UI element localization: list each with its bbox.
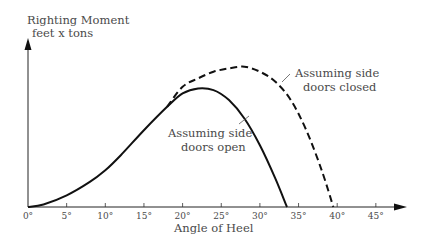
- annotation-open-line2: doors open: [181, 140, 246, 154]
- annotation-open-line1: Assuming side: [167, 126, 252, 140]
- x-tick-label: 10°: [97, 211, 113, 221]
- annotation-leader-closed: [282, 74, 290, 82]
- y-axis-arrow-icon: [25, 38, 32, 50]
- x-tick-label: 40°: [329, 211, 345, 221]
- x-axis-arrow-icon: [394, 204, 407, 211]
- x-tick-label: 30°: [252, 211, 268, 221]
- y-axis-label-line2: feet x tons: [32, 26, 93, 40]
- x-tick-label: 0°: [23, 211, 33, 221]
- annotation-closed-line1: Assuming side: [294, 66, 379, 80]
- y-axis-label-line1: Righting Moment: [27, 13, 130, 27]
- annotation-closed-line2: doors closed: [303, 80, 377, 94]
- x-tick-label: 20°: [175, 211, 191, 221]
- x-axis-ticks: 0°5°10°15°20°25°30°35°40°45°: [23, 203, 384, 221]
- x-tick-label: 45°: [368, 211, 384, 221]
- x-tick-label: 5°: [62, 211, 72, 221]
- x-axis-label: Angle of Heel: [173, 221, 254, 235]
- righting-moment-chart: 0°5°10°15°20°25°30°35°40°45° Righting Mo…: [0, 0, 426, 242]
- curve-doors-open: [28, 88, 287, 207]
- x-tick-label: 35°: [291, 211, 307, 221]
- x-tick-label: 25°: [213, 211, 229, 221]
- x-tick-label: 15°: [136, 211, 152, 221]
